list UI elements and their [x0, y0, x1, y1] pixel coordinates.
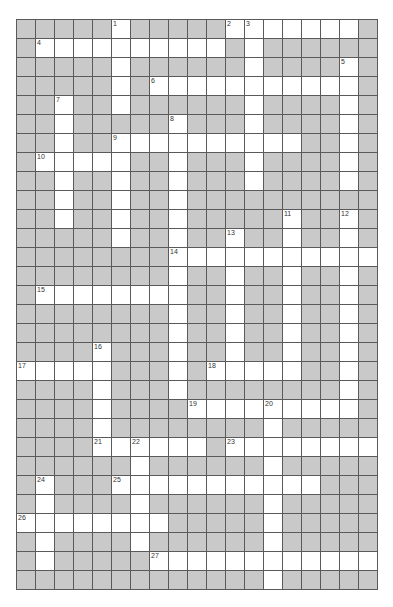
answer-cell[interactable]: [149, 133, 168, 152]
answer-cell[interactable]: [54, 190, 73, 209]
answer-cell[interactable]: [111, 57, 130, 76]
answer-cell[interactable]: [244, 133, 263, 152]
answer-cell[interactable]: [263, 76, 282, 95]
answer-cell[interactable]: [168, 209, 187, 228]
answer-cell[interactable]: [244, 399, 263, 418]
answer-cell[interactable]: [282, 437, 301, 456]
answer-cell[interactable]: [244, 57, 263, 76]
answer-cell[interactable]: [111, 38, 130, 57]
answer-cell[interactable]: [263, 456, 282, 475]
answer-cell[interactable]: [244, 114, 263, 133]
answer-cell[interactable]: [130, 38, 149, 57]
answer-cell[interactable]: [339, 399, 358, 418]
answer-cell[interactable]: [168, 285, 187, 304]
answer-cell[interactable]: 20: [263, 399, 282, 418]
answer-cell[interactable]: [168, 190, 187, 209]
answer-cell[interactable]: [244, 95, 263, 114]
answer-cell[interactable]: [244, 361, 263, 380]
answer-cell[interactable]: [149, 437, 168, 456]
answer-cell[interactable]: [225, 399, 244, 418]
answer-cell[interactable]: 7: [54, 95, 73, 114]
answer-cell[interactable]: [111, 513, 130, 532]
answer-cell[interactable]: [168, 437, 187, 456]
answer-cell[interactable]: [339, 228, 358, 247]
answer-cell[interactable]: [263, 418, 282, 437]
answer-cell[interactable]: [187, 38, 206, 57]
answer-cell[interactable]: [187, 133, 206, 152]
answer-cell[interactable]: [263, 361, 282, 380]
answer-cell[interactable]: [35, 551, 54, 570]
answer-cell[interactable]: [35, 361, 54, 380]
answer-cell[interactable]: [92, 418, 111, 437]
answer-cell[interactable]: [73, 152, 92, 171]
answer-cell[interactable]: [54, 285, 73, 304]
answer-cell[interactable]: 3: [244, 19, 263, 38]
answer-cell[interactable]: [206, 38, 225, 57]
answer-cell[interactable]: [168, 342, 187, 361]
answer-cell[interactable]: [339, 171, 358, 190]
answer-cell[interactable]: [206, 399, 225, 418]
answer-cell[interactable]: 9: [111, 133, 130, 152]
answer-cell[interactable]: [263, 133, 282, 152]
answer-cell[interactable]: 5: [339, 57, 358, 76]
answer-cell[interactable]: 26: [16, 513, 35, 532]
answer-cell[interactable]: [54, 152, 73, 171]
answer-cell[interactable]: [282, 475, 301, 494]
answer-cell[interactable]: [244, 475, 263, 494]
answer-cell[interactable]: [263, 494, 282, 513]
answer-cell[interactable]: [244, 38, 263, 57]
answer-cell[interactable]: 14: [168, 247, 187, 266]
answer-cell[interactable]: [206, 247, 225, 266]
answer-cell[interactable]: [339, 266, 358, 285]
answer-cell[interactable]: 24: [35, 475, 54, 494]
answer-cell[interactable]: [168, 152, 187, 171]
answer-cell[interactable]: [73, 38, 92, 57]
answer-cell[interactable]: [206, 551, 225, 570]
answer-cell[interactable]: [225, 266, 244, 285]
answer-cell[interactable]: [225, 304, 244, 323]
answer-cell[interactable]: [149, 38, 168, 57]
answer-cell[interactable]: [225, 133, 244, 152]
answer-cell[interactable]: [92, 285, 111, 304]
answer-cell[interactable]: [301, 399, 320, 418]
answer-cell[interactable]: [149, 285, 168, 304]
answer-cell[interactable]: 16: [92, 342, 111, 361]
answer-cell[interactable]: [168, 133, 187, 152]
answer-cell[interactable]: [54, 133, 73, 152]
answer-cell[interactable]: 25: [111, 475, 130, 494]
answer-cell[interactable]: 19: [187, 399, 206, 418]
answer-cell[interactable]: [54, 361, 73, 380]
answer-cell[interactable]: [301, 19, 320, 38]
answer-cell[interactable]: [339, 551, 358, 570]
answer-cell[interactable]: 27: [149, 551, 168, 570]
answer-cell[interactable]: [225, 361, 244, 380]
answer-cell[interactable]: [168, 380, 187, 399]
answer-cell[interactable]: [111, 209, 130, 228]
answer-cell[interactable]: [73, 361, 92, 380]
answer-cell[interactable]: [320, 247, 339, 266]
answer-cell[interactable]: [244, 171, 263, 190]
answer-cell[interactable]: [111, 76, 130, 95]
answer-cell[interactable]: [339, 152, 358, 171]
answer-cell[interactable]: [168, 304, 187, 323]
answer-cell[interactable]: 1: [111, 19, 130, 38]
answer-cell[interactable]: [339, 133, 358, 152]
answer-cell[interactable]: [35, 494, 54, 513]
answer-cell[interactable]: [168, 361, 187, 380]
answer-cell[interactable]: [339, 361, 358, 380]
answer-cell[interactable]: [130, 494, 149, 513]
answer-cell[interactable]: [187, 437, 206, 456]
answer-cell[interactable]: [263, 19, 282, 38]
answer-cell[interactable]: [168, 475, 187, 494]
answer-cell[interactable]: [263, 532, 282, 551]
answer-cell[interactable]: [282, 342, 301, 361]
answer-cell[interactable]: [301, 475, 320, 494]
answer-cell[interactable]: [54, 38, 73, 57]
answer-cell[interactable]: [263, 247, 282, 266]
answer-cell[interactable]: [339, 437, 358, 456]
answer-cell[interactable]: [168, 38, 187, 57]
answer-cell[interactable]: [244, 437, 263, 456]
answer-cell[interactable]: 18: [206, 361, 225, 380]
answer-cell[interactable]: [73, 513, 92, 532]
answer-cell[interactable]: [92, 380, 111, 399]
